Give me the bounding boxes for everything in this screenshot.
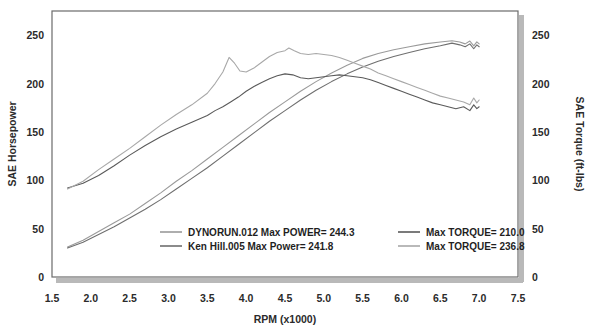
x-axis-title: RPM (x1000) xyxy=(254,313,316,325)
x-tick-label: 5.0 xyxy=(317,292,332,304)
y2-tick-label: 100 xyxy=(532,174,550,186)
y2-tick-label: 200 xyxy=(532,78,550,90)
x-tick-label: 2.5 xyxy=(122,292,137,304)
x-tick-label: 3.0 xyxy=(161,292,176,304)
axis-shadow-bottom xyxy=(56,278,523,283)
y-axis-title: SAE Horsepower xyxy=(6,101,18,186)
y-tick-label: 250 xyxy=(26,29,44,41)
dyno-chart: 1.52.02.53.03.54.04.55.05.56.06.57.07.50… xyxy=(0,0,592,329)
x-tick-label: 3.5 xyxy=(200,292,215,304)
y2-tick-label: 250 xyxy=(532,29,550,41)
x-tick-label: 7.0 xyxy=(472,292,487,304)
x-tick-label: 5.5 xyxy=(355,292,370,304)
y2-axis-title: SAE Torque (ft-lbs) xyxy=(574,97,586,192)
y2-tick-label: 50 xyxy=(532,223,544,235)
x-tick-label: 6.5 xyxy=(433,292,448,304)
x-tick-label: 1.5 xyxy=(45,292,60,304)
y-tick-label: 50 xyxy=(32,223,44,235)
y-tick-label: 100 xyxy=(26,174,44,186)
x-tick-label: 4.0 xyxy=(239,292,254,304)
y2-tick-label: 0 xyxy=(532,271,538,283)
x-tick-label: 2.0 xyxy=(84,292,99,304)
x-tick-label: 7.5 xyxy=(511,292,526,304)
legend-label: Max TORQUE= 236.8 xyxy=(426,241,525,252)
legend-label: Ken Hill.005 Max Power= 241.8 xyxy=(188,241,334,252)
y2-tick-label: 150 xyxy=(532,126,550,138)
y-tick-label: 0 xyxy=(38,271,44,283)
y-tick-label: 150 xyxy=(26,126,44,138)
chart-canvas: 1.52.02.53.03.54.04.55.05.56.06.57.07.50… xyxy=(0,0,592,329)
x-tick-label: 4.5 xyxy=(278,292,293,304)
legend-label: DYNORUN.012 Max POWER= 244.3 xyxy=(188,227,355,238)
legend-label: Max TORQUE= 210.0 xyxy=(426,227,525,238)
x-tick-label: 6.0 xyxy=(394,292,409,304)
y-tick-label: 200 xyxy=(26,78,44,90)
